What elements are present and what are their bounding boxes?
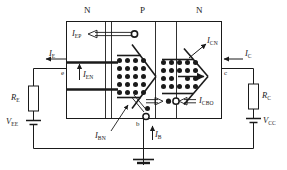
icbo-subscript: CBO	[202, 100, 214, 106]
terminal-label-collector: c	[224, 70, 227, 77]
transistor-diagram-figure: N P N e b c IEP IE IEN IBN IB ICN IC ICB…	[0, 0, 287, 170]
current-label-ien: IEN	[83, 70, 94, 79]
vee-subscript: EE	[11, 121, 18, 127]
component-label-vee: VEE	[6, 117, 18, 126]
component-label-rc: RC	[262, 91, 271, 100]
current-label-ib: IB	[155, 130, 162, 139]
diagram-canvas	[0, 0, 287, 170]
ib-subscript: B	[158, 134, 162, 140]
component-label-vcc: VCC	[263, 116, 276, 125]
emitter-hole-current-arrow	[88, 30, 138, 38]
icn-subscript: CN	[210, 40, 218, 46]
ic-subscript: C	[248, 53, 252, 59]
current-label-icn: ICN	[207, 36, 218, 45]
vcc-subscript: CC	[268, 120, 276, 126]
current-label-icbo: ICBO	[199, 96, 214, 105]
ien-subscript: EN	[86, 74, 94, 80]
current-label-ie: IE	[49, 49, 55, 58]
region-label-emitter: N	[84, 6, 91, 15]
terminal-label-base: b	[136, 121, 140, 128]
current-label-ibn: IBN	[95, 131, 106, 140]
region-label-collector: N	[196, 6, 203, 15]
ibn-subscript: BN	[98, 135, 106, 141]
component-label-re: RE	[11, 93, 20, 102]
terminal-label-emitter: e	[61, 70, 64, 77]
iep-subscript: EP	[75, 33, 82, 39]
current-label-iep: IEP	[72, 29, 82, 38]
base-recombination-indicator	[111, 95, 150, 131]
current-label-ic: IC	[245, 49, 252, 58]
collector-electron-current-arrow	[189, 44, 206, 58]
ie-subscript: E	[52, 53, 56, 59]
region-label-base: P	[140, 6, 145, 15]
rc-subscript: C	[267, 95, 271, 101]
base-electron-dot-grid	[117, 58, 146, 95]
re-subscript: E	[16, 97, 20, 103]
collector-electron-dot-grid	[161, 60, 198, 89]
